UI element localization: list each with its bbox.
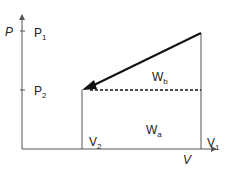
- pv-diagram: P P1 P2 V2 V1 V Wb Wa: [0, 0, 230, 171]
- wa-label: Wa: [146, 123, 162, 139]
- p1-label: P1: [34, 26, 47, 42]
- v1-label: V1: [207, 136, 220, 152]
- y-axis-label: P: [5, 25, 13, 39]
- p2-label: P2: [34, 84, 47, 100]
- x-axis-label: V: [183, 153, 192, 167]
- wb-label: Wb: [152, 70, 168, 86]
- process-arrow: [92, 33, 201, 86]
- arrow-head: [82, 80, 97, 90]
- v2-label: V2: [89, 135, 102, 151]
